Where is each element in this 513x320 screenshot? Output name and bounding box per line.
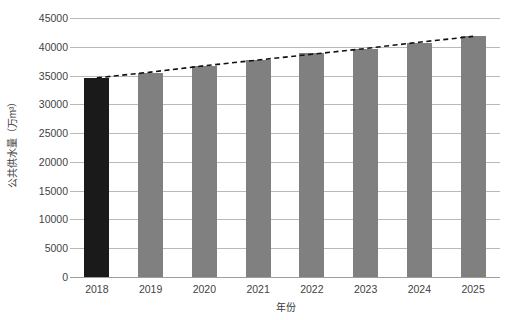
x-axis-title-text: 年份	[70, 299, 502, 314]
bar-2021	[246, 60, 271, 277]
y-tick-label: 0	[24, 271, 68, 283]
plot-area: 20182019202020212022202320242025	[70, 0, 502, 320]
y-tick-label: 40000	[24, 41, 68, 53]
y-tick-label: 15000	[24, 185, 68, 197]
x-axis-line	[70, 277, 500, 278]
bar-2024	[407, 43, 432, 277]
y-tick-label: 30000	[24, 98, 68, 110]
x-tick-label-2022: 2022	[300, 283, 323, 295]
y-axis-tick-labels: 0500010000150002000025000300003500040000…	[22, 0, 68, 320]
chart-container: 公共供水量（万m³） 05000100001500020000250003000…	[0, 0, 513, 320]
y-tick-label: 45000	[24, 12, 68, 24]
x-tick-label-2023: 2023	[354, 283, 377, 295]
y-tick-label: 25000	[24, 127, 68, 139]
x-tick-label-2019: 2019	[139, 283, 162, 295]
y-axis-title: 公共供水量（万m³）	[0, 0, 24, 285]
x-tick-label-2024: 2024	[408, 283, 431, 295]
bar-2020	[192, 66, 217, 277]
y-tick-label: 20000	[24, 156, 68, 168]
y-tick-label: 10000	[24, 213, 68, 225]
x-tick-label-2025: 2025	[461, 283, 484, 295]
y-tick-label: 35000	[24, 70, 68, 82]
x-tick-label-2021: 2021	[246, 283, 269, 295]
bar-2022	[299, 53, 324, 277]
y-tick-label: 5000	[24, 242, 68, 254]
bar-2018	[84, 78, 109, 277]
x-tick-label-2020: 2020	[193, 283, 216, 295]
bar-2019	[138, 73, 163, 277]
x-tick-label-2018: 2018	[85, 283, 108, 295]
bar-2025	[461, 36, 486, 277]
bar-series	[70, 0, 502, 320]
y-axis-title-text: 公共供水量（万m³）	[5, 97, 20, 189]
bar-2023	[353, 49, 378, 277]
